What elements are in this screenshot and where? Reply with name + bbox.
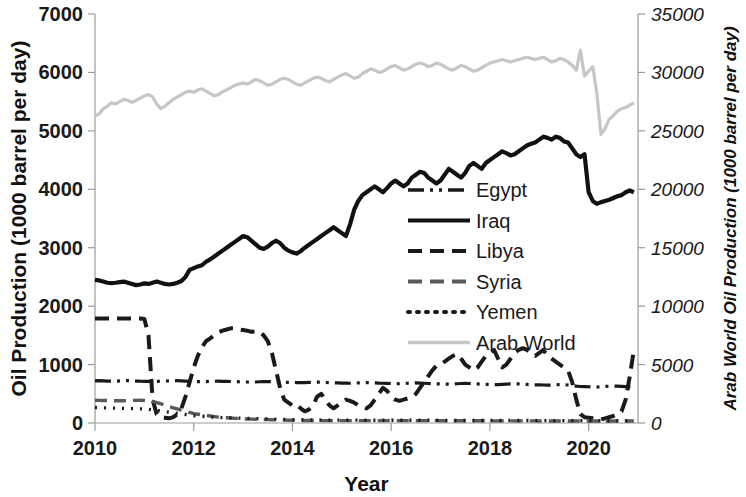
- x-axis-tick-label: 2012: [171, 437, 216, 459]
- right-axis-tick-label: 30000: [651, 62, 704, 83]
- left-axis-tick-label: 6000: [39, 61, 84, 83]
- x-axis-tick-label: 2014: [270, 437, 315, 459]
- right-axis-tick-label: 10000: [651, 296, 704, 317]
- x-axis-tick-label: 2010: [73, 437, 118, 459]
- legend-label-iraq: Iraq: [476, 210, 510, 232]
- x-axis-tick-label: 2018: [468, 437, 513, 459]
- left-axis-tick-label: 4000: [39, 178, 84, 200]
- x-axis-tick-label: 2020: [566, 437, 611, 459]
- left-axis-tick-label: 3000: [39, 237, 84, 259]
- x-axis-title: Year: [344, 472, 388, 495]
- left-axis-title: Oil Production (1000 barrel per day): [7, 41, 30, 397]
- legend-label-libya: Libya: [476, 240, 525, 262]
- right-axis-title: Arab World Oil Production (1000 barrel p…: [721, 26, 740, 411]
- left-axis-tick-label: 1000: [39, 354, 84, 376]
- chart-canvas: 01000200030004000500060007000 0500010000…: [0, 0, 746, 497]
- right-axis-tick-label: 5000: [651, 355, 694, 376]
- legend-label-arab-world: Arab World: [476, 332, 576, 354]
- right-axis-tick-label: 20000: [650, 179, 704, 200]
- legend-label-yemen: Yemen: [476, 301, 538, 323]
- left-axis-tick-label: 7000: [39, 3, 84, 25]
- x-axis-tick-label: 2016: [369, 437, 414, 459]
- legend-label-syria: Syria: [476, 271, 522, 293]
- oil-production-chart: 01000200030004000500060007000 0500010000…: [0, 0, 746, 497]
- left-axis-tick-label: 0: [72, 412, 83, 434]
- right-axis-tick-label: 15000: [651, 238, 704, 259]
- left-axis-tick-label: 5000: [39, 120, 84, 142]
- left-axis-tick-label: 2000: [39, 295, 84, 317]
- right-axis-tick-label: 0: [651, 413, 662, 434]
- legend-label-egypt: Egypt: [476, 179, 528, 201]
- right-axis-tick-label: 25000: [650, 121, 704, 142]
- right-axis-tick-label: 35000: [651, 4, 704, 25]
